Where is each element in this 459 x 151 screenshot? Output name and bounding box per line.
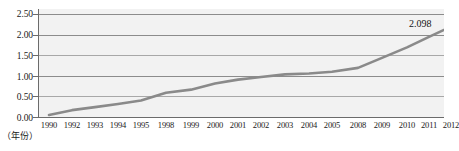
y-axis-tick-label: 2.00 [17,30,33,40]
y-axis-tick-label: 1.50 [17,51,33,61]
x-axis-tick-label: 1993 [87,120,103,131]
x-axis-tick-label: 2012 [443,120,459,131]
x-axis-tick-label: 2010 [399,120,415,131]
data-label-2012: 2.098 [409,18,432,29]
x-axis-tick-label: 1998 [158,120,174,131]
y-axis-tick-label: 0.00 [17,113,33,123]
x-axis-tick-label: 1990 [41,120,57,131]
y-axis-tick-label: 1.00 [17,72,33,82]
x-axis-tick-label: 2000 [207,120,223,131]
x-axis-tick-label: 2005 [324,120,340,131]
x-axis-tick-label: 2001 [230,120,246,131]
x-axis-tick-label: 2004 [301,120,317,131]
x-axis-labels: 1990 1992 1993 1994 1995 1998 1999 2000 … [38,120,444,134]
x-axis-tick-label: 2008 [350,120,366,131]
x-axis-tick-label: 1992 [64,120,80,131]
y-axis-tick-label: 2.50 [17,9,33,19]
x-axis-tick-label: 2003 [277,120,293,131]
x-axis-line [38,117,444,118]
x-axis-tick-label: 2009 [374,120,390,131]
x-axis-title: （年份） [2,131,38,142]
series-line [38,9,444,118]
x-axis-tick-label: 1994 [110,120,126,131]
x-axis-tick-label: 2002 [253,120,269,131]
x-axis-tick-label: 1995 [133,120,149,131]
plot-area [38,9,444,118]
y-axis-tick-label: 0.50 [17,92,33,102]
x-axis-tick-label: 1999 [183,120,199,131]
plot-inner [38,9,444,118]
y-axis-labels: 2.50 2.00 1.50 1.00 0.50 0.00 [0,0,36,151]
y-axis-line [38,9,39,118]
x-axis-tick-label: 2011 [421,120,437,131]
